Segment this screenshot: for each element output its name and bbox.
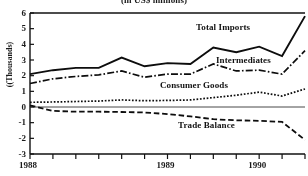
series-line-intermediates	[30, 51, 305, 84]
series-lines	[30, 16, 305, 140]
series-line-consumer-goods	[30, 89, 305, 102]
series-line-total-imports	[30, 16, 305, 74]
plot-area	[0, 0, 308, 176]
axes	[30, 13, 305, 159]
series-line-trade-balance	[30, 105, 305, 139]
chart-container: (in US$ millions) ((Thousands) 6543210-1…	[0, 0, 308, 176]
